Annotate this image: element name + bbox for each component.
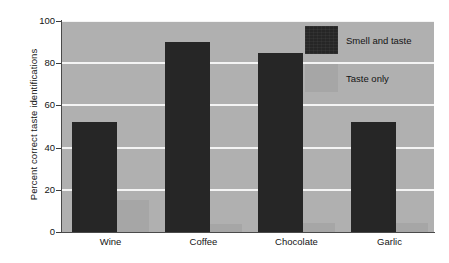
- y-tick-mark: [56, 148, 61, 149]
- x-tick-label-wine: Wine: [71, 237, 151, 247]
- bar-taste-only-coffee[interactable]: [210, 224, 242, 232]
- y-tick-label: 40: [31, 143, 55, 153]
- bar-smell-and-taste-garlic[interactable]: [351, 122, 396, 232]
- x-axis-spine: [61, 232, 435, 233]
- legend-entry-taste-only[interactable]: Taste only: [305, 64, 435, 92]
- gridline: [62, 104, 434, 106]
- chart-legend: Smell and taste Taste only: [305, 26, 435, 93]
- x-tick-label-chocolate: Chocolate: [257, 237, 337, 247]
- y-tick-label: 60: [31, 100, 55, 110]
- light-swatch-icon: [305, 64, 338, 92]
- bar-taste-only-wine[interactable]: [117, 200, 149, 232]
- x-tick-label-coffee: Coffee: [164, 237, 244, 247]
- y-tick-mark: [56, 21, 61, 22]
- legend-label-taste-only: Taste only: [346, 73, 389, 84]
- bar-smell-and-taste-wine[interactable]: [72, 122, 117, 232]
- y-tick-mark: [56, 105, 61, 106]
- bar-taste-only-garlic[interactable]: [396, 223, 428, 232]
- y-tick-label: 80: [31, 58, 55, 68]
- bar-smell-and-taste-coffee[interactable]: [165, 42, 210, 232]
- bar-smell-and-taste-chocolate[interactable]: [258, 53, 303, 232]
- y-tick-mark: [56, 190, 61, 191]
- bar-taste-only-chocolate[interactable]: [303, 223, 335, 232]
- dark-swatch-icon: [305, 26, 338, 54]
- legend-entry-smell-and-taste[interactable]: Smell and taste: [305, 26, 435, 54]
- bar-chart-figure: Percent correct taste identifications 02…: [0, 0, 449, 263]
- y-axis-tick-labels: 020406080100: [29, 0, 55, 263]
- y-tick-label: 20: [31, 185, 55, 195]
- gridline: [62, 21, 434, 22]
- legend-label-smell-and-taste: Smell and taste: [346, 35, 411, 46]
- y-tick-mark: [56, 232, 61, 233]
- x-tick-label-garlic: Garlic: [350, 237, 430, 247]
- y-tick-label: 100: [31, 16, 55, 26]
- y-tick-label: 0: [31, 227, 55, 237]
- y-tick-mark: [56, 63, 61, 64]
